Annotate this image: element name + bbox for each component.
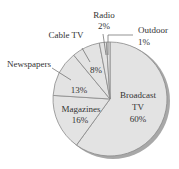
- pct-broadcast-tv: 60%: [130, 114, 147, 124]
- pct-outdoor: 1%: [138, 37, 151, 47]
- label-broadcast-tv-line1: Broadcast: [120, 90, 156, 100]
- pct-cable-tv: 8%: [90, 65, 103, 75]
- label-radio: Radio: [93, 10, 115, 20]
- label-cable-tv: Cable TV: [48, 30, 84, 40]
- label-magazines: Magazines: [62, 104, 101, 114]
- label-newspapers: Newspapers: [7, 59, 51, 69]
- label-outdoor: Outdoor: [138, 25, 168, 35]
- pct-magazines: 16%: [72, 115, 89, 125]
- pct-newspapers: 13%: [71, 85, 88, 95]
- pie-chart: Radio 2% Outdoor 1% Cable TV 8% Newspape…: [0, 0, 179, 169]
- label-broadcast-tv-line2: TV: [132, 102, 144, 112]
- pct-radio: 2%: [98, 21, 111, 31]
